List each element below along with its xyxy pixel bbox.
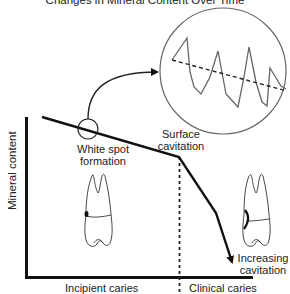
tooth-cavitated-icon: [243, 174, 270, 246]
increasing-cavitation-label: Increasing cavitation: [236, 252, 290, 276]
increasing-cavitation-line-1: Increasing: [236, 252, 290, 264]
clinical-caries-label: Clinical caries: [189, 282, 257, 294]
axes: [25, 117, 253, 278]
white-spot-line-2: formation: [75, 155, 131, 167]
diagram-title: Changes in Mineral Content Over Time: [0, 0, 290, 6]
tooth-incipient-icon: [85, 174, 113, 246]
white-spot-label: White spot formation: [75, 143, 131, 167]
caries-diagram: Changes in Mineral Content Over Time Min…: [0, 0, 290, 294]
diagram-graphics: [0, 0, 290, 294]
incipient-caries-label: Incipient caries: [65, 282, 138, 294]
magnify-arrow-icon: [88, 72, 157, 119]
surface-cavitation-line-2: cavitation: [152, 140, 210, 152]
y-axis-label: Mineral content: [6, 131, 18, 210]
surface-cavitation-label: Surface cavitation: [152, 128, 210, 152]
inset-magnified-view: [160, 8, 287, 134]
white-spot-line-1: White spot: [75, 143, 131, 155]
increasing-cavitation-line-2: cavitation: [236, 264, 290, 276]
surface-cavitation-line-1: Surface: [152, 128, 210, 140]
